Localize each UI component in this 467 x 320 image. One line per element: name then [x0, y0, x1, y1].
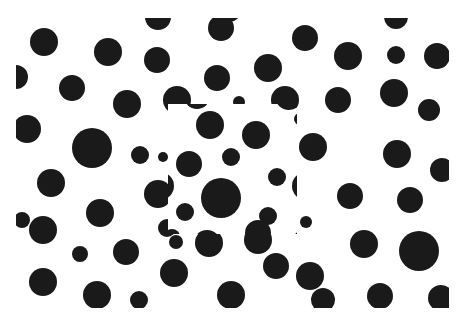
dot — [380, 79, 408, 107]
dot — [299, 133, 327, 161]
dot — [86, 199, 114, 227]
dot — [418, 99, 440, 121]
dot — [334, 42, 362, 70]
dot — [399, 231, 439, 271]
dot — [113, 90, 141, 118]
dot — [397, 187, 423, 213]
dot — [387, 46, 405, 64]
dot — [337, 183, 363, 209]
dot — [292, 25, 318, 51]
inner-dot — [201, 178, 241, 218]
dot — [72, 246, 88, 262]
dot — [263, 253, 289, 279]
dot — [217, 281, 245, 309]
inner-dot — [176, 151, 202, 177]
dot-pattern-image — [0, 0, 467, 320]
inner-dot — [268, 168, 286, 186]
dot — [383, 140, 411, 168]
dot — [300, 216, 312, 228]
dot — [131, 146, 149, 164]
dot — [158, 152, 168, 162]
dot — [29, 216, 57, 244]
dot — [296, 262, 324, 290]
dot — [424, 43, 450, 69]
dot — [113, 239, 139, 265]
dot — [144, 180, 172, 208]
dot — [94, 38, 122, 66]
dot-pattern-canvas — [0, 0, 467, 320]
dot — [144, 47, 170, 73]
dot — [254, 54, 282, 82]
dot — [204, 65, 230, 91]
dot — [37, 169, 65, 197]
inner-dot — [176, 203, 194, 221]
dot — [72, 128, 112, 168]
dot — [59, 75, 85, 101]
dot — [160, 259, 188, 287]
dot — [30, 28, 58, 56]
dot — [14, 212, 30, 228]
dot — [169, 235, 183, 249]
inner-dot — [196, 111, 224, 139]
dot — [29, 268, 57, 296]
dot — [367, 283, 393, 309]
dot — [325, 87, 351, 113]
dot — [350, 230, 378, 258]
dot — [130, 291, 148, 309]
inner-dot — [242, 121, 270, 149]
dot — [13, 115, 41, 143]
inner-dot — [222, 148, 240, 166]
dot — [83, 281, 111, 309]
